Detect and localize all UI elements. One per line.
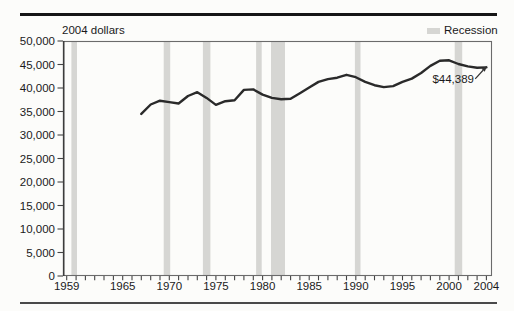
x-tick-label: 2000 bbox=[429, 280, 469, 292]
y-tick-label: 30,000 bbox=[6, 129, 55, 141]
y-tick-label: 40,000 bbox=[6, 82, 55, 94]
y-tick-label: 10,000 bbox=[6, 223, 55, 235]
x-tick-label: 1980 bbox=[243, 280, 283, 292]
x-tick-label: 1995 bbox=[382, 280, 422, 292]
x-tick-label: 1985 bbox=[289, 280, 329, 292]
y-tick-label: 50,000 bbox=[6, 35, 55, 47]
plot-area bbox=[0, 0, 514, 311]
income-line bbox=[141, 60, 486, 114]
y-tick-label: 5,000 bbox=[6, 247, 55, 259]
x-tick-label: 2004 bbox=[466, 280, 506, 292]
y-tick-label: 45,000 bbox=[6, 59, 55, 71]
x-tick-label: 1959 bbox=[47, 280, 87, 292]
x-tick-label: 1990 bbox=[336, 280, 376, 292]
x-tick-label: 1975 bbox=[196, 280, 236, 292]
x-tick-label: 1970 bbox=[149, 280, 189, 292]
recession-band bbox=[256, 42, 262, 276]
recession-band bbox=[203, 42, 211, 276]
value-annotation: $44,389 bbox=[428, 73, 474, 85]
y-tick-label: 25,000 bbox=[6, 153, 55, 165]
recession-band bbox=[271, 42, 285, 276]
y-tick-label: 15,000 bbox=[6, 200, 55, 212]
recession-band bbox=[164, 42, 171, 276]
bottom-rule bbox=[20, 302, 497, 304]
y-tick-label: 35,000 bbox=[6, 106, 55, 118]
recession-band bbox=[71, 42, 77, 276]
figure: 2004 dollars Recession 05,00010,00015,00… bbox=[0, 0, 514, 311]
y-tick-label: 20,000 bbox=[6, 176, 55, 188]
x-tick-label: 1965 bbox=[103, 280, 143, 292]
